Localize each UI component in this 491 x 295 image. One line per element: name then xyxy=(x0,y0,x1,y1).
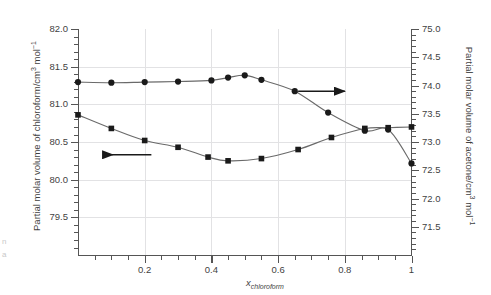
tick-minor-x xyxy=(362,256,363,260)
tick-minor-x xyxy=(178,256,179,260)
tick-label-right: 73.5 xyxy=(422,108,441,119)
axis-line-left xyxy=(78,29,79,256)
tick-minor-left xyxy=(74,225,78,226)
tick-minor-left xyxy=(74,127,78,128)
tick-major-right xyxy=(412,114,419,115)
tick-minor-left xyxy=(74,44,78,45)
tick-major-left xyxy=(71,67,78,68)
tick-label-left: 81.0 xyxy=(38,98,68,109)
tick-minor-left xyxy=(74,89,78,90)
tick-minor-x xyxy=(395,256,396,260)
tick-minor-x xyxy=(161,256,162,260)
tick-label-right: 74.5 xyxy=(422,51,441,62)
tick-minor-left xyxy=(74,195,78,196)
tick-label-right: 72.0 xyxy=(422,193,441,204)
tick-minor-x xyxy=(295,256,296,260)
edge-artifact-left-b: a xyxy=(2,250,6,259)
tick-minor-x xyxy=(111,256,112,260)
tick-minor-right xyxy=(412,69,416,70)
y-axis-title-left-sup-2: −1 xyxy=(30,41,37,49)
tick-minor-x xyxy=(261,256,262,260)
tick-major-right xyxy=(412,142,419,143)
tick-minor-x xyxy=(328,256,329,260)
tick-minor-x xyxy=(311,256,312,260)
tick-major-left xyxy=(71,217,78,218)
tick-major-x xyxy=(278,256,279,263)
gridline-horizontal xyxy=(78,142,412,143)
gridline-vertical xyxy=(278,29,279,255)
x-axis-title-subscript: chloroform xyxy=(251,283,284,290)
tick-minor-right xyxy=(412,91,416,92)
gridline-horizontal xyxy=(78,217,412,218)
y-axis-title-right-text-a: Partial molar volume of acetone/cm xyxy=(464,47,475,196)
tick-minor-right xyxy=(412,131,416,132)
tick-major-right xyxy=(412,86,419,87)
tick-minor-left xyxy=(74,202,78,203)
tick-label-x: 0.6 xyxy=(258,264,298,275)
tick-minor-right xyxy=(412,74,416,75)
tick-minor-left xyxy=(74,210,78,211)
y-axis-title-left: Partial molar volume of chloroform/cm3 m… xyxy=(30,36,42,236)
gridline-horizontal xyxy=(78,67,412,68)
tick-label-left: 80.0 xyxy=(38,174,68,185)
tick-minor-right xyxy=(412,46,416,47)
tick-minor-x xyxy=(378,256,379,260)
tick-minor-right xyxy=(412,35,416,36)
tick-minor-right xyxy=(412,182,416,183)
y-axis-title-right-text-b: mol xyxy=(464,200,475,218)
edge-artifact-left-a: n xyxy=(2,237,6,246)
tick-minor-x xyxy=(95,256,96,260)
gridline-vertical xyxy=(345,29,346,255)
y-axis-title-left-text-b: mol xyxy=(31,49,42,67)
tick-minor-left xyxy=(74,150,78,151)
tick-major-left xyxy=(71,29,78,30)
tick-label-right: 75.0 xyxy=(422,23,441,34)
tick-minor-right xyxy=(412,238,416,239)
tick-minor-right xyxy=(412,215,416,216)
tick-minor-right xyxy=(412,187,416,188)
tick-minor-right xyxy=(412,153,416,154)
tick-minor-left xyxy=(74,59,78,60)
tick-minor-x xyxy=(245,256,246,260)
tick-major-left xyxy=(71,142,78,143)
y-axis-title-right-sup-2: −1 xyxy=(469,217,476,225)
gridline-vertical xyxy=(211,29,212,255)
tick-minor-left xyxy=(74,52,78,53)
tick-label-x: 0.4 xyxy=(191,264,231,275)
tick-minor-left xyxy=(74,248,78,249)
tick-minor-left xyxy=(74,232,78,233)
tick-minor-right xyxy=(412,165,416,166)
tick-minor-left xyxy=(74,112,78,113)
tick-minor-right xyxy=(412,148,416,149)
tick-minor-right xyxy=(412,244,416,245)
gridline-vertical xyxy=(145,29,146,255)
tick-label-left: 82.0 xyxy=(38,23,68,34)
tick-label-left: 80.5 xyxy=(38,136,68,147)
tick-minor-right xyxy=(412,80,416,81)
tick-minor-right xyxy=(412,52,416,53)
gridline-horizontal xyxy=(78,180,412,181)
tick-minor-left xyxy=(74,82,78,83)
tick-major-x xyxy=(211,256,212,263)
y-axis-title-left-sup-1: 3 xyxy=(30,67,37,71)
tick-label-x: 1 xyxy=(392,264,432,275)
tick-minor-left xyxy=(74,172,78,173)
tick-minor-right xyxy=(412,221,416,222)
tick-minor-right xyxy=(412,232,416,233)
tick-minor-left xyxy=(74,97,78,98)
tick-minor-right xyxy=(412,159,416,160)
tick-minor-right xyxy=(412,119,416,120)
tick-minor-left xyxy=(74,37,78,38)
tick-label-right: 74.0 xyxy=(422,80,441,91)
tick-major-x xyxy=(145,256,146,263)
tick-minor-right xyxy=(412,108,416,109)
tick-minor-x xyxy=(195,256,196,260)
tick-minor-right xyxy=(412,249,416,250)
tick-major-right xyxy=(412,227,419,228)
tick-minor-right xyxy=(412,97,416,98)
tick-label-x: 0.2 xyxy=(125,264,165,275)
tick-minor-x xyxy=(128,256,129,260)
tick-label-left: 81.5 xyxy=(38,61,68,72)
tick-major-x xyxy=(345,256,346,263)
tick-major-right xyxy=(412,29,419,30)
